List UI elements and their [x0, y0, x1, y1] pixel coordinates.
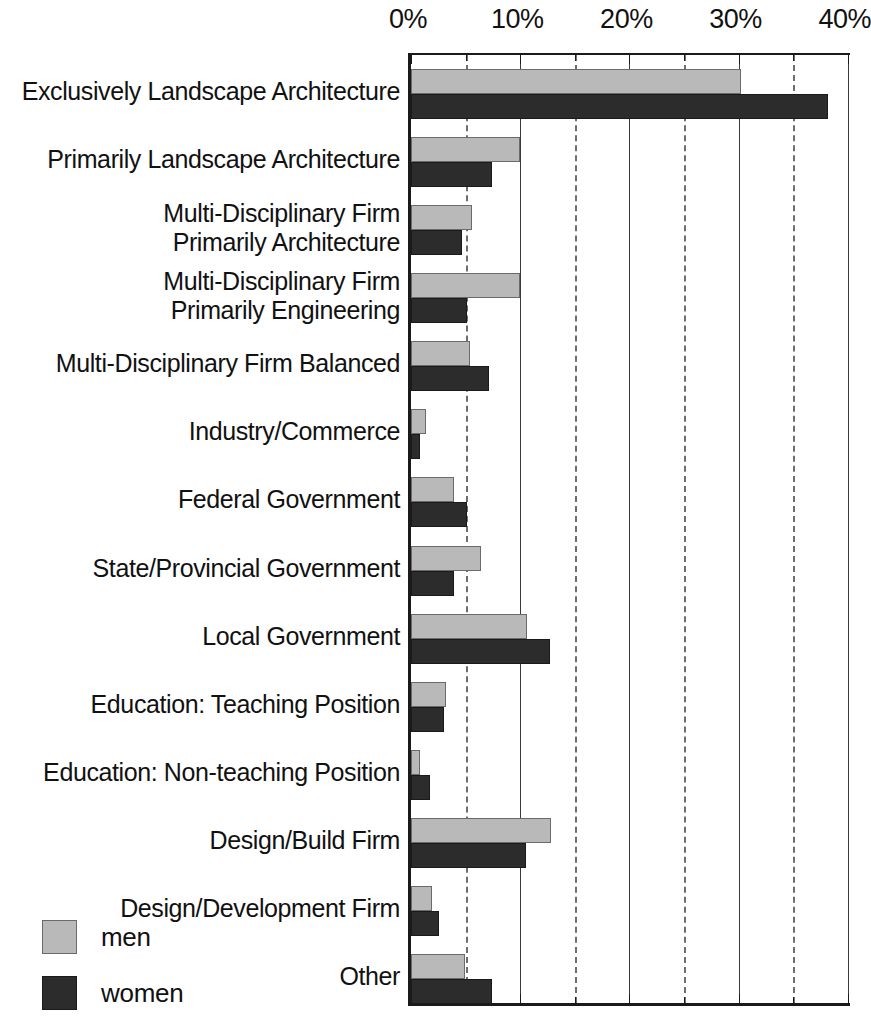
category-label: Federal Government	[178, 485, 400, 514]
bar-women	[411, 94, 828, 119]
category-label: Education: Teaching Position	[91, 690, 400, 719]
bar-men	[411, 409, 426, 434]
bar-men	[411, 477, 454, 502]
bar-men	[411, 750, 420, 775]
bar-women	[411, 366, 489, 391]
category-label: Multi-Disciplinary Firm Balanced	[56, 349, 400, 378]
legend-item-men: men	[42, 916, 151, 958]
category-label: Other	[339, 962, 400, 991]
category-label: Primarily Landscape Architecture	[47, 145, 400, 174]
category-label: Multi-Disciplinary Firm Primarily Archit…	[163, 199, 400, 257]
category-label: Multi-Disciplinary Firm Primarily Engine…	[163, 267, 400, 325]
bar-women	[411, 162, 492, 187]
x-tick-label: 20%	[600, 2, 653, 36]
bar-men	[411, 818, 551, 843]
x-tick-label: 40%	[819, 2, 871, 36]
x-tick-label: 30%	[709, 2, 762, 36]
bar-women	[411, 298, 467, 323]
category-label: Design/Development Firm	[120, 894, 400, 923]
bar-men	[411, 886, 432, 911]
bar-men	[411, 614, 527, 639]
bar-women	[411, 911, 439, 936]
bar-women	[411, 502, 467, 527]
bar-men	[411, 273, 520, 298]
bar-men	[411, 682, 446, 707]
bar-men	[411, 954, 465, 979]
category-label: Exclusively Landscape Architecture	[22, 77, 400, 106]
category-label: State/Provincial Government	[93, 554, 400, 583]
bar-women	[411, 707, 444, 732]
legend-swatch-men	[42, 920, 77, 954]
bars	[411, 55, 850, 1003]
bar-men	[411, 341, 470, 366]
bar-women	[411, 230, 462, 255]
x-axis-tick-labels: 0%10%20%30%40%	[0, 2, 858, 40]
bar-men	[411, 546, 481, 571]
category-label: Design/Build Firm	[210, 826, 400, 855]
bar-men	[411, 205, 472, 230]
plot-area	[408, 53, 850, 1006]
x-tick-label: 0%	[389, 2, 427, 36]
legend-label: men	[101, 922, 151, 952]
bar-women	[411, 775, 430, 800]
bar-women	[411, 979, 492, 1004]
x-tick-label: 10%	[491, 2, 544, 36]
bar-women	[411, 843, 526, 868]
legend-item-women: women	[42, 972, 183, 1014]
bar-men	[411, 69, 741, 94]
category-label: Industry/Commerce	[189, 417, 400, 446]
bar-women	[411, 571, 454, 596]
legend-label: women	[101, 978, 183, 1008]
bar-men	[411, 137, 520, 162]
legend-swatch-women	[42, 976, 77, 1010]
category-label: Education: Non-teaching Position	[43, 758, 400, 787]
bar-women	[411, 434, 420, 459]
category-label: Local Government	[202, 622, 400, 651]
bar-women	[411, 639, 550, 664]
